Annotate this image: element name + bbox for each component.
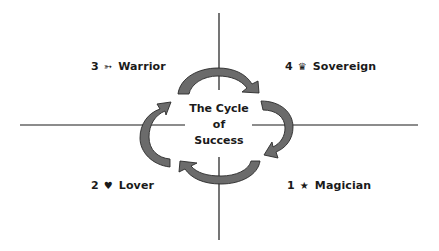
arrow-icon: ➳ xyxy=(104,61,112,72)
quadrant-label-warrior: 3➳Warrior xyxy=(91,60,166,73)
heart-icon: ♥ xyxy=(104,180,113,191)
quadrant-number: 1 xyxy=(287,179,295,192)
quadrant-label-sovereign: 4♛Sovereign xyxy=(285,60,376,73)
cycle-title: The Cycle of Success xyxy=(179,101,259,149)
star-icon: ★ xyxy=(300,180,309,191)
quadrant-name: Warrior xyxy=(118,60,165,73)
quadrant-label-magician: 1★Magician xyxy=(287,179,371,192)
quadrant-name: Magician xyxy=(315,179,371,192)
curved-arrow-right-icon xyxy=(261,101,293,158)
cycle-of-success-diagram: The Cycle of Success 3➳Warrior 4♛Soverei… xyxy=(0,0,439,251)
quadrant-number: 3 xyxy=(91,60,99,73)
cycle-title-line-3: Success xyxy=(179,133,259,149)
quadrant-label-lover: 2♥Lover xyxy=(91,179,154,192)
quadrant-number: 4 xyxy=(285,60,293,73)
quadrant-number: 2 xyxy=(91,179,99,192)
cycle-title-line-1: The Cycle xyxy=(179,101,259,117)
cycle-title-line-2: of xyxy=(179,117,259,133)
curved-arrow-left-icon xyxy=(140,102,171,167)
quadrant-name: Lover xyxy=(119,179,154,192)
crown-icon: ♛ xyxy=(298,61,307,72)
quadrant-name: Sovereign xyxy=(313,60,376,73)
